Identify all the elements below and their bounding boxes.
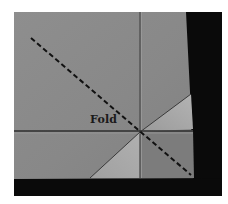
fold-label: Fold: [90, 113, 117, 126]
fabric-photo: Fold: [14, 12, 222, 196]
fabric-fold-illustration: [14, 12, 222, 196]
dark-background-bottom: [14, 178, 222, 196]
